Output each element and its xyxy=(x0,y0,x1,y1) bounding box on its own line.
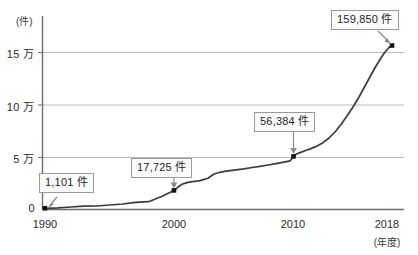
gridlines xyxy=(42,53,404,158)
ytick-label-50000: 5 万 xyxy=(0,150,35,166)
data-markers xyxy=(43,43,395,210)
annotation-callout-2018: 159,850 件 xyxy=(331,10,399,30)
line-chart: (件) 15 万 10 万 5 万 0 1990 2000 2010 2018 … xyxy=(0,0,418,255)
annotation-callout-1990: 1,101 件 xyxy=(39,173,94,193)
chart-plot-area xyxy=(0,0,418,255)
annotation-leaders xyxy=(47,31,391,209)
marker-2000 xyxy=(172,188,177,193)
ytick-label-100000: 10 万 xyxy=(0,98,35,114)
arrowhead-2010 xyxy=(290,148,297,154)
xtick-label-2010: 2010 xyxy=(266,218,320,230)
annotation-callout-2000: 17,725 件 xyxy=(131,158,192,178)
xtick-label-1990: 1990 xyxy=(18,218,72,230)
marker-1990 xyxy=(43,206,48,211)
annotation-callout-2010: 56,384 件 xyxy=(254,112,315,132)
y-axis-unit-label: (件) xyxy=(16,13,33,28)
x-axis-unit-label: (年度) xyxy=(365,234,409,249)
ytick-label-0: 0 xyxy=(0,202,35,214)
data-line xyxy=(45,46,392,209)
leader-2018 xyxy=(378,31,388,41)
xtick-label-2000: 2000 xyxy=(147,218,201,230)
y-tick-marks xyxy=(38,53,42,158)
marker-2018 xyxy=(390,43,395,48)
marker-2010 xyxy=(291,154,296,159)
ytick-label-150000: 15 万 xyxy=(0,45,35,61)
xtick-label-2018: 2018 xyxy=(365,218,409,230)
